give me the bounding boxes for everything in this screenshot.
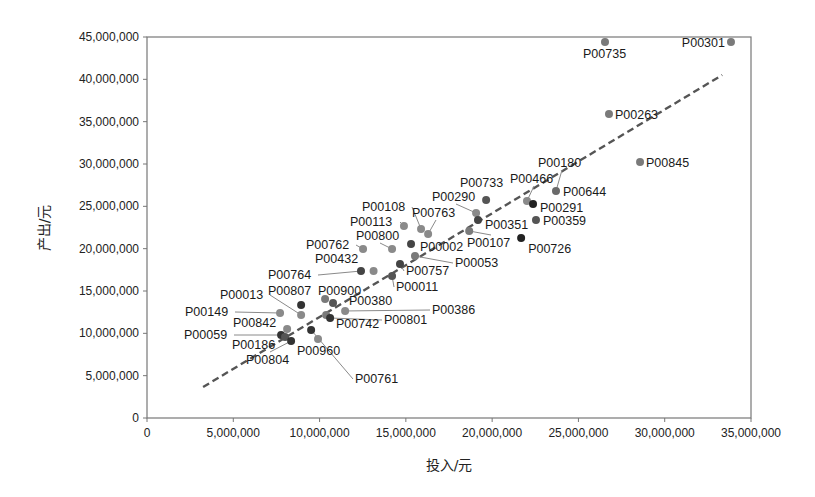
data-point-labels: P00735P00301P00263P00845P00180P00644P004…	[184, 36, 725, 386]
plot-area	[147, 37, 751, 418]
data-point	[287, 337, 295, 345]
data-point	[370, 267, 378, 275]
data-point	[605, 110, 613, 118]
data-point	[552, 187, 560, 195]
y-axis: 05,000,00010,000,00015,000,00020,000,000…	[79, 30, 147, 425]
data-point-label: P00186	[232, 338, 275, 352]
y-tick-label: 5,000,000	[86, 369, 140, 383]
data-points	[276, 38, 735, 345]
data-point-label: P00180	[538, 156, 581, 170]
data-point-label: P00108	[362, 200, 405, 214]
data-point	[341, 307, 349, 315]
y-tick-label: 35,000,000	[79, 115, 139, 129]
data-point-label: P00351	[485, 218, 528, 232]
data-point	[529, 200, 537, 208]
x-axis-title: 投入/元	[426, 457, 473, 473]
data-point	[411, 252, 419, 260]
data-point-label: P00432	[315, 252, 358, 266]
y-tick-label: 40,000,000	[79, 72, 139, 86]
data-point-label: P00011	[396, 280, 438, 294]
data-point	[636, 158, 644, 166]
data-point-label: P00466	[510, 172, 553, 186]
data-point	[465, 227, 473, 235]
x-tick-label: 30,000,000	[635, 426, 695, 440]
data-point	[314, 335, 322, 343]
data-point-label: P00733	[460, 176, 503, 190]
data-point-label: P00804	[246, 353, 289, 367]
data-point	[326, 314, 334, 322]
data-point	[359, 245, 367, 253]
data-point-label: P00742	[336, 317, 379, 331]
data-point	[482, 196, 490, 204]
data-point	[297, 301, 305, 309]
x-tick-label: 20,000,000	[462, 426, 522, 440]
data-point-label: P00359	[543, 214, 586, 228]
data-point	[388, 245, 396, 253]
data-point-label: P00263	[615, 108, 658, 122]
data-point-label: P00301	[682, 36, 725, 50]
x-tick-label: 15,000,000	[376, 426, 436, 440]
y-tick-label: 0	[132, 411, 139, 425]
data-point	[417, 225, 425, 233]
data-point-label: P00644	[563, 185, 606, 199]
data-point-label: P00763	[412, 206, 455, 220]
data-point	[329, 299, 337, 307]
data-point-label: P00845	[646, 156, 689, 170]
data-point	[297, 311, 305, 319]
x-tick-label: 0	[144, 426, 151, 440]
data-point-label: P00386	[432, 303, 475, 317]
x-tick-label: 35,000,000	[721, 426, 781, 440]
x-axis: 05,000,00010,000,00015,000,00020,000,000…	[144, 418, 782, 440]
data-point-label: P00807	[268, 284, 311, 298]
data-point	[276, 309, 284, 317]
y-axis-title: 产出/元	[36, 205, 52, 252]
x-tick-label: 25,000,000	[548, 426, 608, 440]
data-point	[517, 234, 525, 242]
data-point-label: P00291	[540, 201, 583, 215]
data-point-label: P00735	[583, 47, 626, 61]
data-point-label: P00290	[432, 190, 475, 204]
y-tick-label: 30,000,000	[79, 157, 139, 171]
data-point	[424, 230, 432, 238]
data-point-label: P00113	[350, 215, 392, 229]
y-tick-label: 10,000,000	[79, 326, 139, 340]
data-point-label: P00757	[406, 264, 449, 278]
y-tick-label: 45,000,000	[79, 30, 139, 44]
data-point-label: P00380	[349, 294, 392, 308]
scatter-chart: 05,000,00010,000,00015,000,00020,000,000…	[0, 0, 815, 497]
data-point	[474, 216, 482, 224]
data-point	[407, 240, 415, 248]
data-point	[472, 209, 480, 217]
x-tick-label: 5,000,000	[207, 426, 261, 440]
y-tick-label: 20,000,000	[79, 242, 139, 256]
data-point-label: P00960	[297, 344, 340, 358]
data-point-label: P00762	[306, 238, 349, 252]
data-point-label: P00764	[268, 268, 311, 282]
data-point	[357, 267, 365, 275]
data-point-label: P00801	[384, 313, 427, 327]
data-point	[400, 222, 408, 230]
y-tick-label: 25,000,000	[79, 199, 139, 213]
data-point	[307, 326, 315, 334]
data-point	[727, 38, 735, 46]
data-point	[601, 38, 609, 46]
data-point-label: P00842	[233, 316, 276, 330]
data-point-label: P00761	[355, 372, 398, 386]
data-point	[283, 325, 291, 333]
data-point-label: P00053	[455, 256, 498, 270]
data-point-label: P00107	[467, 236, 510, 250]
data-point-label: P00059	[184, 328, 227, 342]
data-point-label: P00013	[220, 288, 263, 302]
data-point-label: P00149	[185, 305, 228, 319]
data-point-label: P00002	[420, 240, 463, 254]
data-point	[396, 260, 404, 268]
x-tick-label: 10,000,000	[290, 426, 350, 440]
data-point-label: P00800	[356, 229, 399, 243]
y-tick-label: 15,000,000	[79, 284, 139, 298]
data-point-label: P00726	[528, 242, 571, 256]
data-point	[388, 272, 396, 280]
data-point	[532, 216, 540, 224]
